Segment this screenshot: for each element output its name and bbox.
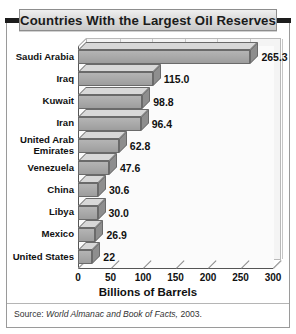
source-title: World Almanac and Book of Facts, <box>46 309 178 319</box>
bar-value-label: 22 <box>103 251 115 263</box>
title-plate: Countries With the Largest Oil Reserves <box>19 9 277 31</box>
source-suffix: 2003. <box>178 309 202 319</box>
x-tick-label: 50 <box>105 272 116 283</box>
bar <box>78 117 149 131</box>
category-label: Libya <box>0 207 74 218</box>
bar-front-face <box>78 50 250 64</box>
bar <box>78 139 127 153</box>
bar <box>78 50 258 64</box>
bar <box>78 183 106 197</box>
bar-front-face <box>78 250 92 264</box>
bar-value-label: 98.8 <box>153 96 173 108</box>
category-label: Kuwait <box>0 96 74 107</box>
bar-front-face <box>78 139 119 153</box>
x-tick-label: 200 <box>200 272 217 283</box>
bar-value-label: 47.6 <box>120 162 140 174</box>
bar-value-label: 26.9 <box>106 229 126 241</box>
bar <box>78 228 103 242</box>
category-axis-labels: Saudi ArabiaIraqKuwaitIranUnited Arab Em… <box>0 46 74 268</box>
page-title: Countries With the Largest Oil Reserves <box>20 13 276 28</box>
category-label: Venezuela <box>0 163 74 174</box>
category-label: United States <box>0 252 74 263</box>
x-tick-label: 150 <box>167 272 184 283</box>
bar-value-label: 30.0 <box>109 207 129 219</box>
title-cap-left <box>5 18 19 23</box>
bar-front-face <box>78 72 153 86</box>
bar-value-label: 265.3 <box>261 51 287 63</box>
category-label: Saudi Arabia <box>0 52 74 63</box>
bar <box>78 161 117 175</box>
bar-front-face <box>78 206 98 220</box>
category-label: Mexico <box>0 229 74 240</box>
bar-front-face <box>78 183 98 197</box>
bar <box>78 95 150 109</box>
bar-top-face <box>78 42 258 50</box>
x-tick-label: 250 <box>232 272 249 283</box>
category-label: Iran <box>0 118 74 129</box>
category-label: China <box>0 185 74 196</box>
x-tick-label: 0 <box>75 272 81 283</box>
source-divider <box>7 303 289 304</box>
bar-front-face <box>78 117 141 131</box>
chart-figure: Countries With the Largest Oil Reserves … <box>0 0 296 334</box>
bar-value-label: 96.4 <box>152 118 172 130</box>
bar-value-label: 115.0 <box>164 73 190 85</box>
gridline <box>282 39 283 259</box>
bar <box>78 206 106 220</box>
bar <box>78 250 100 264</box>
bar-top-face <box>78 64 161 72</box>
bar-front-face <box>78 95 142 109</box>
source-prefix: Source: <box>14 309 46 319</box>
bar-value-label: 62.8 <box>130 140 150 152</box>
bar-top-face <box>78 87 150 95</box>
bar-front-face <box>78 228 95 242</box>
bar <box>78 72 161 86</box>
category-label: United Arab Emirates <box>0 135 74 156</box>
chart-title-banner: Countries With the Largest Oil Reserves <box>12 9 284 31</box>
x-tick-label: 300 <box>265 272 282 283</box>
category-label: Iraq <box>0 74 74 85</box>
title-cap-right <box>277 18 291 23</box>
bar-front-face <box>78 161 109 175</box>
x-tick-label: 100 <box>135 272 152 283</box>
x-axis-title: Billions of Barrels <box>0 286 296 298</box>
bar-top-face <box>78 109 149 117</box>
source-note: Source: World Almanac and Book of Facts,… <box>14 309 202 319</box>
bar-value-label: 30.6 <box>109 184 129 196</box>
